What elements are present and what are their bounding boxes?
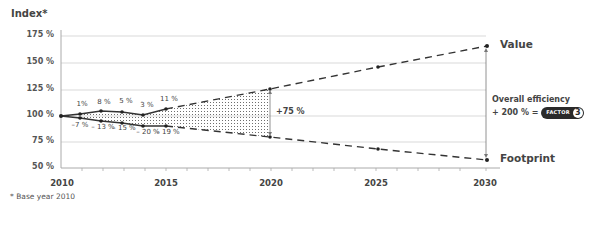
factor-badge-text: FACTOR	[546, 106, 570, 119]
value-label-2011: 1%	[76, 100, 87, 108]
value-label-2013: 5 %	[119, 97, 132, 105]
footnote: * Base year 2010	[10, 192, 75, 201]
value-label-2012: 8 %	[97, 98, 110, 106]
efficiency-value-row: + 200 % = FACTOR 3	[492, 106, 584, 119]
factor-badge: FACTOR 3	[541, 107, 584, 119]
series-label-footprint: Footprint	[500, 152, 555, 164]
series-label-value: Value	[500, 38, 533, 50]
factor-badge-number: 3	[573, 108, 583, 118]
efficiency-title: Overall efficiency	[492, 93, 584, 106]
value-line-projection	[166, 46, 487, 109]
efficiency-value: + 200 % =	[492, 108, 538, 117]
value-label-2015: 11 %	[160, 95, 178, 103]
value-label-2014: 3 %	[140, 101, 153, 109]
efficiency-annotation: Overall efficiency + 200 % = FACTOR 3	[492, 93, 584, 119]
footprint-line-projection	[166, 126, 487, 160]
footprint-label-2013: – 15 %	[112, 124, 136, 132]
footprint-label-2012: – 13 %	[91, 123, 115, 131]
footprint-label-2011: –7 %	[72, 121, 89, 129]
footprint-label-2015: – 19 %	[156, 128, 180, 136]
gap-label-2020: +75 %	[276, 107, 305, 116]
